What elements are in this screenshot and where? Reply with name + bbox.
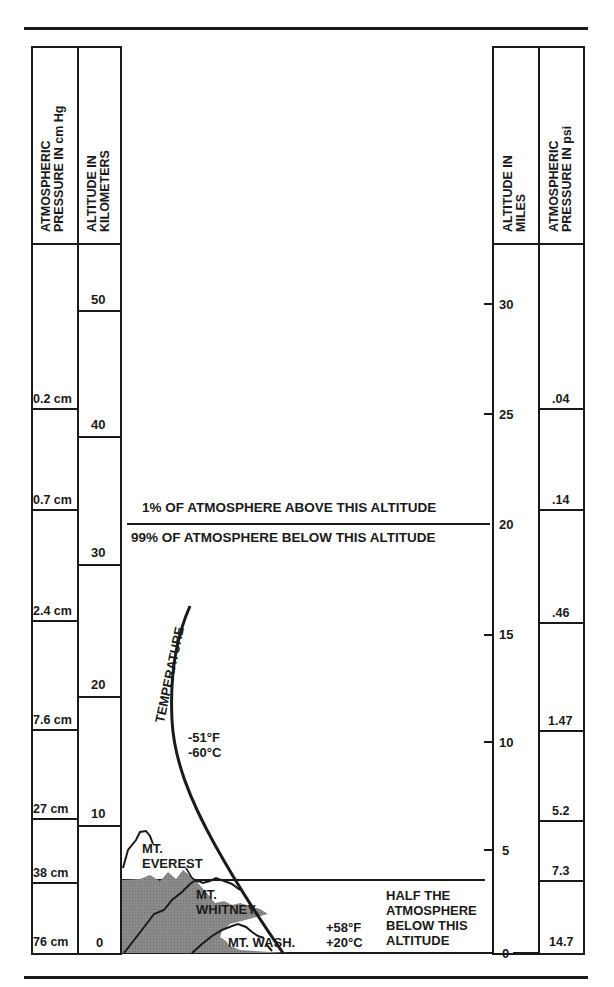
temp-low-f: +58°F xyxy=(326,920,361,935)
temp-high-f: -51°F xyxy=(188,730,220,745)
whitney-label: MT. WHITNEY xyxy=(196,887,256,917)
ninety-nine-percent-label: 99% OF ATMOSPHERE BELOW THIS ALTITUDE xyxy=(131,530,436,545)
half-atmosphere-label: HALF THE ATMOSPHERE BELOW THIS ALTITUDE xyxy=(386,888,477,948)
one-percent-label: 1% OF ATMOSPHERE ABOVE THIS ALTITUDE xyxy=(142,500,436,515)
temp-low-c: +20°C xyxy=(326,935,363,950)
everest-label: MT. EVEREST xyxy=(142,841,203,871)
washington-label: MT. WASH. xyxy=(228,935,295,950)
atmosphere-diagram xyxy=(0,0,614,987)
temp-high-c: -60°C xyxy=(188,745,221,760)
